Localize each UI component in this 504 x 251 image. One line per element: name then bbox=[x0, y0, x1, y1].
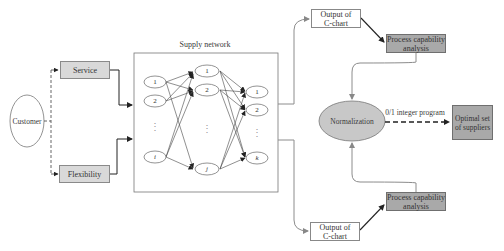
pca-bottom-line2: analysis bbox=[403, 202, 429, 211]
integer-program-label: 0/1 integer program bbox=[380, 108, 450, 117]
criteria-connectors bbox=[110, 70, 132, 174]
supplier-node-1-label: 1 bbox=[145, 79, 165, 86]
pca-bottom-line1: Process capability bbox=[387, 193, 445, 202]
middle-ellipsis: ⋮ bbox=[197, 124, 217, 134]
right-ellipsis: ⋮ bbox=[247, 128, 267, 138]
normalization-label: Normalization bbox=[319, 117, 385, 126]
supplier-node-2-label: 2 bbox=[145, 98, 165, 105]
optimal-line2: of suppliers bbox=[455, 123, 490, 132]
right-node-1-label: 1 bbox=[247, 89, 267, 96]
supply-network-title: Supply network bbox=[170, 40, 240, 49]
output-c-chart-top: Output of C-chart bbox=[311, 9, 361, 28]
service-box: Service bbox=[60, 61, 110, 79]
customer-label: Customer bbox=[10, 117, 44, 126]
supplier-node-i-label: i bbox=[145, 154, 165, 161]
middle-node-2-label: 2 bbox=[197, 87, 217, 94]
middle-node-1-label: 1 bbox=[197, 68, 217, 75]
supplier-ellipsis: ⋮ bbox=[145, 122, 165, 132]
flexibility-label: Flexibility bbox=[68, 170, 101, 179]
output-bottom-line2: C-chart bbox=[323, 232, 347, 241]
output-top-line1: Output of bbox=[321, 10, 352, 19]
process-capability-top: Process capability analysis bbox=[386, 34, 446, 53]
output-c-chart-bottom: Output of C-chart bbox=[310, 222, 360, 241]
pca-top-line2: analysis bbox=[403, 44, 429, 53]
pca-top-line1: Process capability bbox=[387, 35, 445, 44]
right-node-2-label: 2 bbox=[247, 107, 267, 114]
output-top-line2: C-chart bbox=[324, 19, 348, 28]
customer-dashed-connector bbox=[44, 70, 58, 174]
middle-node-j-label: j bbox=[197, 166, 217, 173]
optimal-set-box: Optimal set of suppliers bbox=[452, 105, 493, 140]
service-label: Service bbox=[73, 66, 97, 75]
output-bottom-line1: Output of bbox=[320, 223, 351, 232]
optimal-line1: Optimal set bbox=[455, 114, 490, 123]
right-node-k-label: k bbox=[247, 155, 267, 162]
process-capability-bottom: Process capability analysis bbox=[386, 192, 446, 211]
flexibility-box: Flexibility bbox=[59, 165, 110, 183]
network-output-connectors bbox=[278, 19, 309, 231]
